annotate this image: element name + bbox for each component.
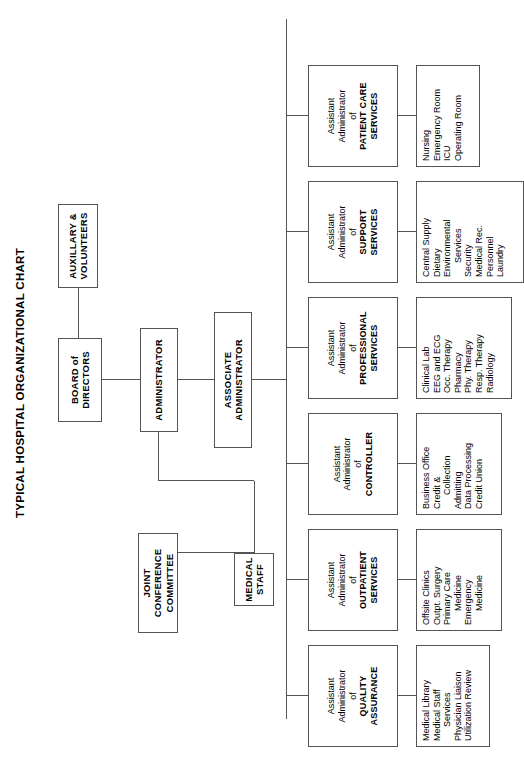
connector-spine-stub-quality-assurance xyxy=(286,695,308,696)
sup-service-3: Services xyxy=(453,228,464,277)
box-services-quality-assurance[interactable]: Medical Library Medical Staff Services P… xyxy=(416,645,490,747)
administrator-label: ADMINISTRATOR xyxy=(153,339,164,420)
prof-service-4: Phy. Therapy xyxy=(463,340,474,393)
pc-role-line-2: Administrator xyxy=(337,90,348,143)
box-services-patient-care-services[interactable]: Nursing Emergency Room ICU Operating Roo… xyxy=(416,65,480,167)
sup-dept-line-2: SERVICES xyxy=(369,209,380,256)
box-assistant-administrator-patient-care-services[interactable]: Assistant Administrator of PATIENT CARE … xyxy=(308,65,398,167)
box-medical-staff[interactable]: MEDICAL STAFF xyxy=(234,553,274,606)
ctrl-service-3: Admitting xyxy=(453,471,464,509)
box-services-controller[interactable]: Business Office Credit & Collection Admi… xyxy=(416,413,502,515)
op-dept-line-1: OUTPATIENT xyxy=(358,551,369,609)
box-assistant-administrator-controller[interactable]: Assistant Administrator of CONTROLLER xyxy=(308,413,398,515)
prof-service-1: EEG and ECG xyxy=(432,334,443,393)
op-role-line-2: Administrator xyxy=(337,554,348,607)
qa-service-0: Medical Library xyxy=(421,680,432,741)
box-assistant-administrator-support-services[interactable]: Assistant Administrator of SUPPORT SERVI… xyxy=(308,181,398,283)
ctrl-role-line-2: Administrator xyxy=(342,438,353,491)
qa-service-2: Services xyxy=(442,692,453,741)
qa-dept-line-2: ASSURANCE xyxy=(369,667,380,726)
joint-conference-line-1: JOINT CONFERENCE xyxy=(141,534,163,632)
pc-role-line-3: of xyxy=(348,112,359,120)
sup-service-0: Central Supply xyxy=(421,218,432,277)
connector-associate-to-spine xyxy=(252,379,286,380)
connector-joint-to-medical-staff xyxy=(254,481,255,553)
op-service-0: Offsite Clinics xyxy=(421,570,432,625)
connector-administrator-to-associate xyxy=(178,379,214,380)
pc-role-line-1: Assistant xyxy=(326,98,337,135)
box-associate-administrator[interactable]: ASSOCIATE ADMINISTRATOR xyxy=(214,312,252,448)
qa-role-line-3: of xyxy=(348,692,359,700)
connector-outpatient-services-to-services xyxy=(398,579,416,580)
qa-service-3: Physician Liaison xyxy=(453,671,464,741)
prof-service-6: Radiology xyxy=(485,353,496,393)
connector-patient-care-services-to-services xyxy=(398,115,416,116)
connector-controller-to-services xyxy=(398,463,416,464)
op-service-2: Primary Care xyxy=(442,572,453,625)
op-service-5: Medicine xyxy=(474,575,485,625)
sup-service-2: Environmental xyxy=(442,219,453,277)
sup-service-6: Personnel xyxy=(485,236,496,277)
ctrl-service-5: Credit Union xyxy=(474,459,485,509)
sup-role-line-2: Administrator xyxy=(337,206,348,259)
prof-service-5: Resp. Therapy xyxy=(474,334,485,393)
connector-division-spine xyxy=(286,19,287,719)
pc-service-3: Operating Room xyxy=(453,95,464,161)
ctrl-role-line-1: Assistant xyxy=(332,446,343,483)
box-services-support-services[interactable]: Central Supply Dietary Environmental Ser… xyxy=(416,181,524,283)
sup-service-5: Medical Rec. xyxy=(474,225,485,277)
sup-role-line-3: of xyxy=(348,228,359,236)
pc-service-0: Nursing xyxy=(421,130,432,161)
pc-dept-line-2: SERVICES xyxy=(369,93,380,140)
box-board-of-directors[interactable]: BOARD of DIRECTORS xyxy=(58,338,102,422)
qa-role-line-1: Assistant xyxy=(326,678,337,715)
connector-spine-stub-patient-care-services xyxy=(286,115,308,116)
sup-service-4: Security xyxy=(463,244,474,277)
medical-staff-line-2: STAFF xyxy=(254,564,265,595)
ctrl-service-4: Data Processing xyxy=(463,443,474,509)
medical-staff-line-1: MEDICAL xyxy=(243,557,254,602)
op-service-1: Outpt. Surgery xyxy=(432,566,443,625)
prof-service-2: Occ. Therapy xyxy=(442,339,453,393)
prof-service-3: Pharmacy xyxy=(453,352,464,393)
box-services-outpatient-services[interactable]: Offsite Clinics Outpt. Surgery Primary C… xyxy=(416,529,502,631)
prof-role-line-2: Administrator xyxy=(337,322,348,375)
associate-administrator-label: ASSOCIATE ADMINISTRATOR xyxy=(222,313,244,447)
auxiliary-line-1: AUXILLARY & xyxy=(67,213,78,279)
sup-role-line-1: Assistant xyxy=(326,214,337,251)
op-role-line-3: of xyxy=(348,576,359,584)
ctrl-dept-line-1: CONTROLLER xyxy=(364,432,375,497)
box-joint-conference-committee[interactable]: JOINT CONFERENCE COMMITTEE xyxy=(138,533,178,633)
box-assistant-administrator-professional-services[interactable]: Assistant Administrator of PROFESSIONAL … xyxy=(308,297,398,399)
prof-role-line-3: of xyxy=(348,344,359,352)
sup-dept-line-1: SUPPORT xyxy=(358,210,369,255)
connector-joint-vertical xyxy=(158,480,254,481)
board-line-2: DIRECTORS xyxy=(80,351,91,409)
sup-service-7: Laundry xyxy=(495,244,506,277)
connector-spine-stub-support-services xyxy=(286,231,308,232)
box-services-professional-services[interactable]: Clinical Lab EEG and ECG Occ. Therapy Ph… xyxy=(416,297,512,399)
box-auxiliary-volunteers[interactable]: AUXILLARY & VOLUNTEERS xyxy=(58,204,98,288)
connector-board-to-administrator xyxy=(102,379,140,380)
auxiliary-line-2: VOLUNTEERS xyxy=(78,213,89,280)
connector-spine-stub-professional-services xyxy=(286,347,308,348)
box-assistant-administrator-outpatient-services[interactable]: Assistant Administrator of OUTPATIENT SE… xyxy=(308,529,398,631)
connector-professional-services-to-services xyxy=(398,347,416,348)
ctrl-role-line-3: of xyxy=(353,460,364,468)
prof-dept-line-2: SERVICES xyxy=(369,325,380,372)
op-role-line-1: Assistant xyxy=(326,562,337,599)
connector-spine-stub-outpatient-services xyxy=(286,579,308,580)
connector-support-services-to-services xyxy=(398,231,416,232)
qa-service-4: Utilization Review xyxy=(463,670,474,741)
op-service-3: Medicine xyxy=(453,575,464,625)
pc-service-1: Emergency Room xyxy=(432,89,443,161)
pc-service-2: ICU xyxy=(442,146,453,162)
ctrl-service-0: Business Office xyxy=(421,447,432,509)
box-assistant-administrator-quality-assurance[interactable]: Assistant Administrator of QUALITY ASSUR… xyxy=(308,645,398,747)
box-administrator[interactable]: ADMINISTRATOR xyxy=(140,328,178,432)
board-line-1: BOARD of xyxy=(69,356,80,404)
qa-dept-line-1: QUALITY xyxy=(358,676,369,717)
page-title: TYPICAL HOSPITAL ORGANIZATIONAL CHART xyxy=(14,0,26,766)
prof-role-line-1: Assistant xyxy=(326,330,337,367)
